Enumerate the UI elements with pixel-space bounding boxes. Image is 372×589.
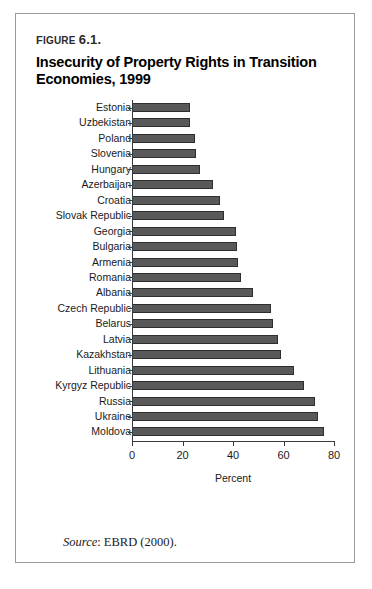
chart-row: Poland [16, 131, 356, 146]
category-label: Poland [0, 132, 131, 144]
chart-row: Romania [16, 270, 356, 285]
x-axis-tick [284, 441, 285, 446]
x-axis-tick-label: 40 [213, 449, 253, 461]
bar [132, 381, 304, 390]
chart-row: Slovenia [16, 146, 356, 161]
category-label: Estonia [0, 101, 131, 113]
category-label: Hungary [0, 163, 131, 175]
bar [132, 350, 281, 359]
bar-chart: EstoniaUzbekistanPolandSloveniaHungaryAz… [16, 100, 356, 500]
chart-row: Estonia [16, 100, 356, 115]
chart-row: Bulgaria [16, 239, 356, 254]
page-title: Insecurity of Property Rights in Transit… [36, 54, 326, 88]
category-label: Kazakhstan [0, 348, 131, 360]
bar [132, 412, 318, 421]
category-label: Slovak Republic [0, 209, 131, 221]
chart-row: Hungary [16, 162, 356, 177]
bar [132, 397, 315, 406]
x-axis-label: Percent [132, 472, 334, 484]
source-note: Source: EBRD (2000). [63, 535, 177, 550]
bar [132, 366, 294, 375]
category-label: Ukraine [0, 410, 131, 422]
category-label: Georgia [0, 225, 131, 237]
bar [132, 196, 220, 205]
chart-row: Ukraine [16, 409, 356, 424]
chart-row: Armenia [16, 255, 356, 270]
figure-number-value: 6.1. [79, 32, 101, 47]
category-label: Croatia [0, 194, 131, 206]
chart-row: Latvia [16, 332, 356, 347]
x-axis-tick-label: 60 [264, 449, 304, 461]
bar [132, 319, 273, 328]
category-label: Armenia [0, 256, 131, 268]
category-label: Moldova [0, 425, 131, 437]
source-text: : EBRD (2000). [97, 535, 177, 549]
x-axis-tick-label: 20 [163, 449, 203, 461]
chart-row: Moldova [16, 424, 356, 439]
category-label: Azerbaijan [0, 178, 131, 190]
bar [132, 211, 224, 220]
x-axis-tick [183, 441, 184, 446]
source-label: Source [63, 535, 97, 549]
figure-number: FIGURE 6.1. [36, 32, 101, 47]
x-axis-tick-label: 80 [314, 449, 354, 461]
chart-row: Uzbekistan [16, 115, 356, 130]
bar [132, 180, 213, 189]
category-label: Russia [0, 395, 131, 407]
chart-row: Albania [16, 285, 356, 300]
x-axis-tick [334, 441, 335, 446]
bar [132, 227, 236, 236]
category-label: Romania [0, 271, 131, 283]
category-label: Belarus [0, 317, 131, 329]
category-label: Uzbekistan [0, 116, 131, 128]
chart-row: Croatia [16, 193, 356, 208]
category-label: Slovenia [0, 147, 131, 159]
category-label: Latvia [0, 333, 131, 345]
figure-number-word: FIGURE [36, 34, 76, 46]
x-axis-tick [233, 441, 234, 446]
bar [132, 149, 196, 158]
chart-row: Czech Republic [16, 301, 356, 316]
bar [132, 427, 324, 436]
chart-row: Azerbaijan [16, 177, 356, 192]
category-label: Kyrgyz Republic [0, 379, 131, 391]
category-label: Albania [0, 286, 131, 298]
bar [132, 134, 195, 143]
chart-row: Lithuania [16, 363, 356, 378]
bar [132, 335, 278, 344]
chart-row: Belarus [16, 316, 356, 331]
bar [132, 304, 271, 313]
category-label: Czech Republic [0, 302, 131, 314]
bar [132, 242, 237, 251]
chart-row: Kazakhstan [16, 347, 356, 362]
chart-row: Russia [16, 394, 356, 409]
chart-row: Slovak Republic [16, 208, 356, 223]
figure-frame: FIGURE 6.1. Insecurity of Property Right… [15, 13, 355, 563]
x-axis-tick [132, 441, 133, 446]
chart-row: Kyrgyz Republic [16, 378, 356, 393]
x-axis-tick-label: 0 [112, 449, 152, 461]
bar [132, 103, 190, 112]
chart-row: Georgia [16, 224, 356, 239]
bar [132, 288, 253, 297]
bar [132, 118, 190, 127]
category-label: Lithuania [0, 364, 131, 376]
y-axis-line [132, 100, 133, 441]
bar [132, 258, 238, 267]
bar [132, 165, 200, 174]
bar [132, 273, 241, 282]
category-label: Bulgaria [0, 240, 131, 252]
